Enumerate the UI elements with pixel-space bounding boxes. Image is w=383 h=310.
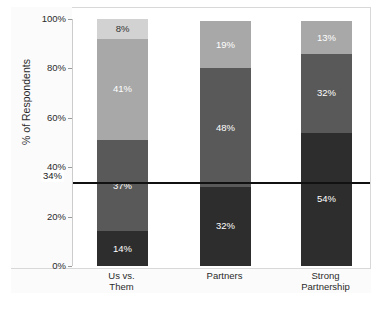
category-axis-label-line: Partners (170, 270, 280, 281)
category-axis-label: Partners (170, 270, 280, 281)
bar-segment[interactable]: 32% (200, 187, 251, 266)
bar-segment-label: 48% (216, 123, 235, 133)
bar-segment[interactable]: 48% (200, 68, 251, 187)
category-axis-label-line: Partnership (271, 281, 381, 292)
category-axis-label: Us vs.Them (67, 270, 177, 292)
bar-segment[interactable]: 41% (97, 39, 148, 140)
bar-segment[interactable]: 37% (97, 140, 148, 231)
y-axis-tick-label: 60% (28, 113, 66, 123)
bar-segment[interactable]: 8% (97, 19, 148, 39)
category-axis-label: StrongPartnership (271, 270, 381, 292)
bar-segment-label: 41% (113, 84, 132, 94)
bar-segment-label: 54% (317, 194, 336, 204)
stacked-bar[interactable]: 13%32%54% (301, 19, 352, 266)
y-axis-tick-label: 0% (28, 261, 66, 271)
bar-segment-label: 32% (317, 88, 336, 98)
bar-segment[interactable]: 54% (301, 133, 352, 266)
bar-segment[interactable]: 14% (97, 231, 148, 266)
stacked-bar[interactable]: 8%41%37%14% (97, 19, 148, 266)
bar-segment[interactable]: 19% (200, 21, 251, 68)
category-axis-label-line: Strong (271, 270, 381, 281)
y-axis-tick-label: 100% (28, 14, 66, 24)
y-axis-tick-label: 80% (28, 63, 66, 73)
y-axis-title: % of Respondents (20, 32, 32, 172)
y-axis-tick-mark (68, 266, 72, 267)
category-axis-label-line: Them (67, 281, 177, 292)
chart-root: % of Respondents 0%20%40%60%80%100% 8%41… (0, 0, 383, 310)
bar-segment[interactable]: 13% (301, 21, 352, 53)
bar-segment-label: 8% (116, 24, 130, 34)
reference-line (73, 182, 370, 184)
category-axis-label-line: Us vs. (67, 270, 177, 281)
bar-segment-label: 13% (317, 33, 336, 43)
reference-line-label: 34% (41, 170, 64, 182)
plot-area: 8%41%37%14%19%48%32%13%32%54% (72, 19, 371, 266)
stacked-bar[interactable]: 19%48%32% (200, 19, 251, 266)
y-axis-tick-label: 20% (28, 212, 66, 222)
bar-segment-label: 32% (216, 221, 235, 231)
bar-segment-label: 14% (113, 244, 132, 254)
bar-segment-label: 19% (216, 40, 235, 50)
bar-segment[interactable]: 32% (301, 54, 352, 133)
